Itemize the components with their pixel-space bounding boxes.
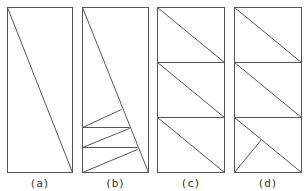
panel-c-label: (c) [181, 177, 201, 190]
panel-c [158, 8, 225, 173]
diagram-figure: (a) (b) (c) (d) [0, 0, 305, 191]
dissection-line [83, 150, 138, 173]
dissection-line [83, 110, 122, 128]
panel-d-label: (d) [258, 177, 278, 190]
panel-d [235, 8, 302, 173]
dissection-line [83, 129, 130, 148]
panel-b-label: (b) [105, 177, 125, 190]
panel-a-label: (a) [30, 177, 50, 190]
dissection-line [158, 8, 225, 63]
dissection-line [235, 8, 302, 63]
dissection-line [8, 8, 73, 173]
dissection-line [235, 118, 302, 173]
dissection-line [158, 118, 225, 173]
panel-a [8, 8, 73, 173]
dissection-line [158, 63, 225, 118]
dissection-line [235, 140, 262, 173]
panel-b [83, 8, 149, 173]
dissection-line [235, 63, 302, 118]
